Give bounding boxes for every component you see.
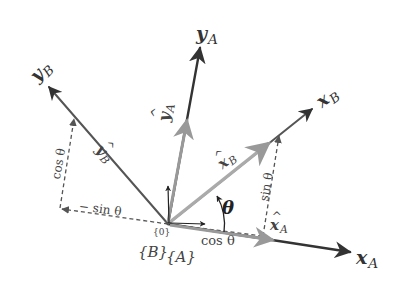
x-hat-A-subscript: A xyxy=(280,223,288,236)
y-hat-A-label: yA xyxy=(156,102,175,123)
x-A-label: xA xyxy=(356,248,378,267)
x-A-subscript: A xyxy=(368,255,378,271)
frame-B-label: {B} xyxy=(138,245,168,260)
cos-theta-xA-label: cos θ xyxy=(201,234,235,247)
unit-vectors xyxy=(84,120,273,240)
frame-A-label: {A} xyxy=(166,250,196,265)
x-A-symbol: x xyxy=(356,246,367,268)
y-A-label: yA xyxy=(196,24,218,43)
y-hat-A-vector xyxy=(168,120,187,222)
theta-label: θ xyxy=(222,199,234,217)
small-right-arrow xyxy=(170,223,205,224)
y-hat-A-subscript: A xyxy=(163,103,178,114)
y-A-symbol: y xyxy=(196,22,207,44)
x-hat-A-symbol: x xyxy=(270,218,279,233)
y-A-subscript: A xyxy=(208,31,218,47)
x-hat-A-label: xA xyxy=(270,218,288,233)
origin-label: {0} xyxy=(153,228,170,237)
